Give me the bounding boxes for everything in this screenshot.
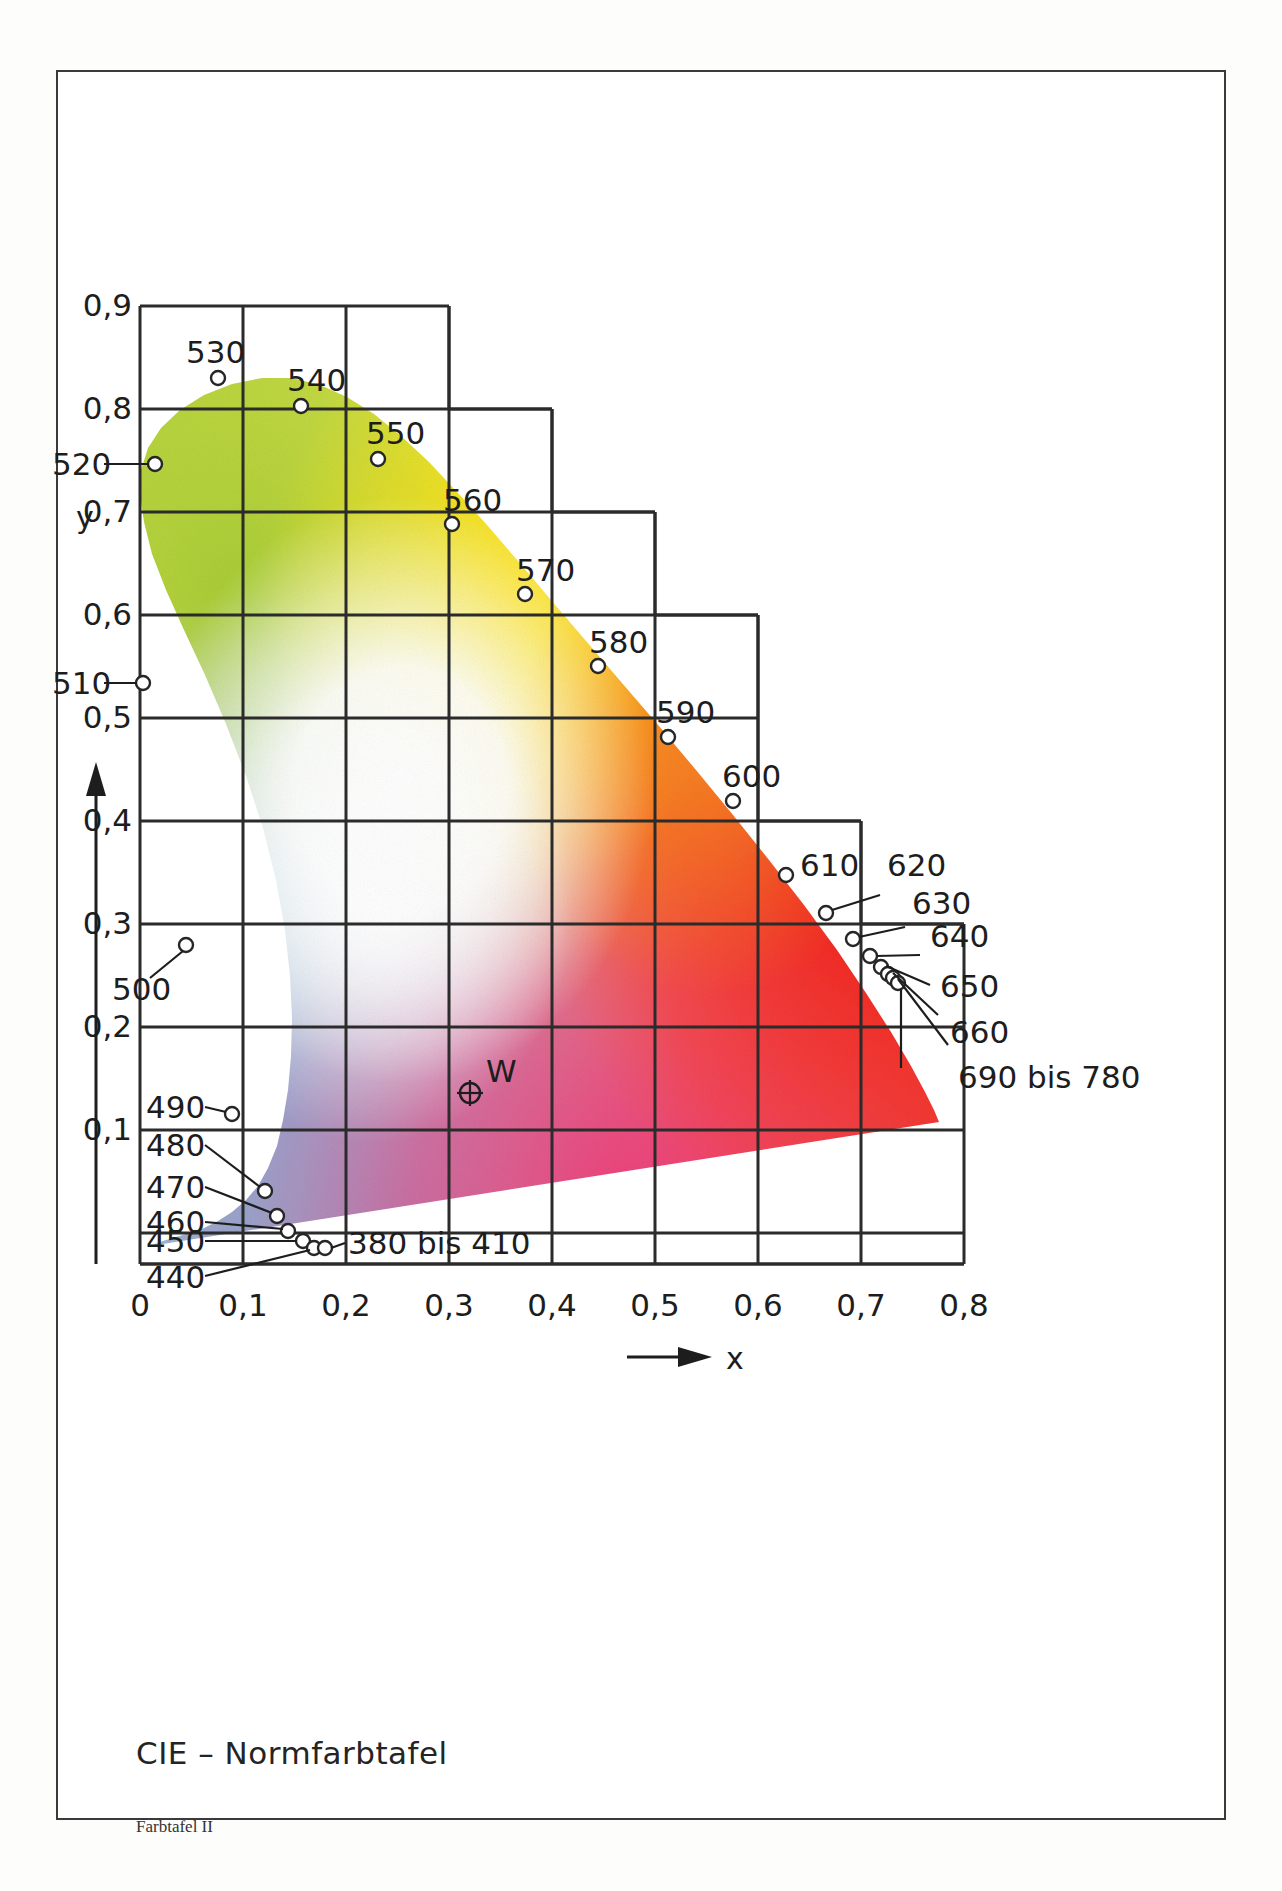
marker-460 xyxy=(270,1209,284,1223)
cie-chromaticity-diagram: y 0,9 0,8 0,7 0,6 0,5 0,4 0,3 0,2 0,1 0 … xyxy=(0,0,1282,1891)
marker-450 xyxy=(281,1224,295,1238)
label-600: 610 xyxy=(800,847,859,883)
white-point-label: W xyxy=(486,1053,517,1089)
label-430: 440 xyxy=(146,1259,205,1295)
marker-520 xyxy=(211,371,225,385)
marker-380-410 xyxy=(318,1241,332,1255)
marker-620 xyxy=(846,932,860,946)
y-tick-0,4: 0,4 xyxy=(83,802,132,838)
x-tick-0,7: 0,7 xyxy=(836,1287,885,1323)
label-520: 530 xyxy=(186,334,245,370)
label-380-410: 380 bis 410 xyxy=(348,1225,531,1261)
marker-490 xyxy=(179,938,193,952)
y-tick-0,8: 0,8 xyxy=(83,390,132,426)
label-570: 580 xyxy=(589,624,648,660)
label-470: 480 xyxy=(146,1127,205,1163)
figure-page: y 0,9 0,8 0,7 0,6 0,5 0,4 0,3 0,2 0,1 0 … xyxy=(0,0,1282,1891)
label-480: 490 xyxy=(146,1089,205,1125)
x-tick-0,4: 0,4 xyxy=(527,1287,576,1323)
label-530: 540 xyxy=(287,362,346,398)
label-620: 630 xyxy=(912,885,971,921)
label-580: 590 xyxy=(656,694,715,730)
label-610: 620 xyxy=(887,847,946,883)
marker-560 xyxy=(518,587,532,601)
label-490: 500 xyxy=(112,971,171,1007)
x-axis-label: x xyxy=(726,1341,744,1376)
figure-subtitle: Farbtafel II xyxy=(136,1817,213,1837)
label-540: 550 xyxy=(366,415,425,451)
x-tick-0,6: 0,6 xyxy=(733,1287,782,1323)
marker-580 xyxy=(661,730,675,744)
marker-540 xyxy=(371,452,385,466)
x-tick-0,3: 0,3 xyxy=(424,1287,473,1323)
y-tick-0,7: 0,7 xyxy=(83,493,132,529)
marker-590 xyxy=(726,794,740,808)
marker-530 xyxy=(294,399,308,413)
label-650: 660 xyxy=(950,1014,1009,1050)
y-tick-0,1: 0,1 xyxy=(83,1111,132,1147)
y-axis: y 0,9 0,8 0,7 0,6 0,5 0,4 0,3 0,2 0,1 xyxy=(76,287,132,1264)
marker-630 xyxy=(863,949,877,963)
marker-600 xyxy=(779,868,793,882)
label-590: 600 xyxy=(722,758,781,794)
marker-510 xyxy=(148,457,162,471)
x-axis: 0 0,1 0,2 0,3 0,4 0,5 0,6 0,7 0,8 x xyxy=(130,1287,989,1376)
label-630: 640 xyxy=(930,918,989,954)
y-tick-0,5: 0,5 xyxy=(83,699,132,735)
label-460: 470 xyxy=(146,1169,205,1205)
marker-610 xyxy=(819,906,833,920)
y-tick-0,9: 0,9 xyxy=(83,287,132,323)
x-tick-0,5: 0,5 xyxy=(630,1287,679,1323)
label-440: 450 xyxy=(146,1223,205,1259)
y-tick-0,3: 0,3 xyxy=(83,905,132,941)
label-660: 690 bis 780 xyxy=(958,1059,1141,1095)
y-axis-arrow-icon xyxy=(86,762,106,796)
chromaticity-gamut xyxy=(120,300,960,1280)
x-axis-arrow-icon xyxy=(678,1347,712,1367)
x-tick-0,2: 0,2 xyxy=(321,1287,370,1323)
y-tick-0,2: 0,2 xyxy=(83,1008,132,1044)
y-tick-0,6: 0,6 xyxy=(83,596,132,632)
marker-500 xyxy=(136,676,150,690)
label-640: 650 xyxy=(940,968,999,1004)
figure-title: CIE – Normfarbtafel xyxy=(136,1735,448,1771)
x-tick-0,8: 0,8 xyxy=(939,1287,988,1323)
label-550: 560 xyxy=(443,482,502,518)
label-560: 570 xyxy=(516,552,575,588)
label-510: 520 xyxy=(52,446,111,482)
marker-550 xyxy=(445,517,459,531)
x-tick-0,1: 0,1 xyxy=(218,1287,267,1323)
marker-480 xyxy=(225,1107,239,1121)
label-500: 510 xyxy=(52,665,111,701)
marker-570 xyxy=(591,659,605,673)
